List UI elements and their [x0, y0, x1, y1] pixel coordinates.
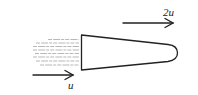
outlet-velocity-arrow-icon: [123, 19, 173, 28]
outlet-velocity-label: 2u: [163, 7, 174, 18]
inlet-velocity-label: u: [68, 80, 74, 91]
nozzle-body: [82, 35, 178, 70]
inlet-velocity-arrow-icon: [33, 71, 73, 80]
streamlines: [33, 40, 79, 66]
